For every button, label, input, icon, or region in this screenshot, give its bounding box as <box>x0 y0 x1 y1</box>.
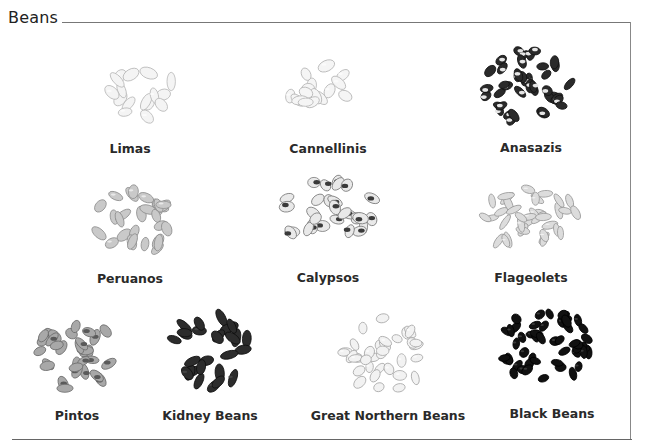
bean-label: Cannellinis <box>289 141 366 156</box>
bean-pile-image <box>88 52 192 132</box>
bean-label: Kidney Beans <box>162 408 258 423</box>
bean-pile-image <box>485 295 609 399</box>
bean-label: Calypsos <box>297 270 359 285</box>
frame-bottom-rule <box>12 439 632 440</box>
bean-pile-image <box>328 304 442 404</box>
page-title: Beans <box>8 8 62 27</box>
bean-label: Flageolets <box>494 270 567 285</box>
frame-top-rule <box>62 22 631 23</box>
frame-right-rule <box>630 22 631 439</box>
bean-pile-image <box>271 50 375 126</box>
bean-pile-image <box>154 302 270 402</box>
bean-label: Pintos <box>55 408 99 423</box>
bean-pile-image <box>22 300 132 404</box>
bean-pile-image <box>263 166 393 258</box>
bean-pile-image <box>73 176 193 268</box>
bean-label: Anasazis <box>500 140 562 155</box>
bean-label: Black Beans <box>509 406 594 421</box>
bean-label: Peruanos <box>97 271 163 286</box>
bean-pile-image <box>469 36 585 136</box>
bean-label: Limas <box>109 141 150 156</box>
bean-label: Great Northern Beans <box>311 408 465 423</box>
bean-pile-image <box>465 174 595 262</box>
